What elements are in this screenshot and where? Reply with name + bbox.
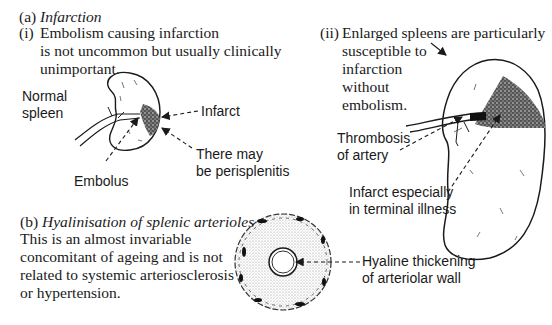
text-line: embolism. — [342, 96, 545, 114]
section-b-title: Hyalinisation of splenic arterioles — [42, 213, 254, 230]
label-line: Thrombosis — [337, 130, 410, 147]
label-line: Infarct especially — [349, 184, 456, 201]
section-a-title: Infarction — [40, 8, 101, 25]
text-line: infarction — [342, 60, 545, 78]
label-line: of arteriolar wall — [362, 270, 476, 287]
label-infarct-terminal: Infarct especially in terminal illness — [349, 184, 456, 218]
text-line: without — [342, 78, 545, 96]
label-thrombosis: Thrombosis of artery — [337, 130, 410, 164]
item-ii-text: Enlarged spleens are particularly suscep… — [342, 24, 545, 114]
label-embolus: Embolus — [74, 173, 128, 190]
text-line: Embolism causing infarction — [40, 24, 282, 42]
section-b-heading: (b) Hyalinisation of splenic arterioles — [20, 213, 254, 231]
section-b-text: This is an almost invariable concomitant… — [20, 230, 234, 302]
label-line: Normal — [22, 88, 67, 105]
label-infarct: Infarct — [201, 103, 240, 120]
section-a-label: (a) — [19, 8, 36, 25]
text-line: concomitant of ageing and is not — [20, 248, 234, 266]
label-line: of artery — [337, 147, 410, 164]
text-line: related to systemic arteriosclerosis — [20, 266, 234, 284]
text-line: unimportant. — [40, 60, 282, 78]
label-hyaline-thickening: Hyaline thickening of arteriolar wall — [362, 253, 476, 287]
item-i-text: Embolism causing infarction is not uncom… — [40, 24, 282, 78]
text-line: Enlarged spleens are particularly — [342, 24, 545, 42]
text-line: susceptible to — [342, 42, 545, 60]
text-line: is not uncommon but usually clinically — [40, 42, 282, 60]
text-line: This is an almost invariable — [20, 230, 234, 248]
label-line: be perisplenitis — [196, 163, 289, 180]
label-line: in terminal illness — [349, 201, 456, 218]
label-line: spleen — [22, 105, 67, 122]
label-perisplenitis: There may be perisplenitis — [196, 146, 289, 180]
normal-spleen-drawing — [75, 72, 160, 150]
label-line: There may — [196, 146, 289, 163]
item-ii-label: (ii) — [320, 24, 339, 42]
label-normal-spleen: Normal spleen — [22, 88, 67, 122]
text-line: or hypertension. — [20, 284, 234, 302]
label-line: Hyaline thickening — [362, 253, 476, 270]
section-b-label: (b) — [20, 213, 38, 230]
item-i-label: (i) — [19, 24, 34, 42]
